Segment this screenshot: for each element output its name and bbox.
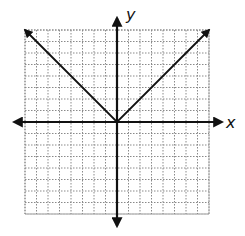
x-axis-label: x [225,113,236,132]
coordinate-plane: x y [0,0,245,236]
y-axis-label: y [125,5,136,24]
